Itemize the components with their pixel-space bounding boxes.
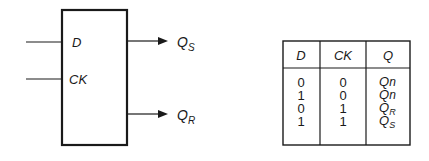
header-q: Q — [383, 48, 393, 63]
header-d: D — [296, 48, 305, 63]
qr-arrow-icon — [158, 110, 168, 118]
truth-table: D CK Q 0 0 Qn 1 0 Qn 0 1 QR 1 1 QS — [283, 41, 410, 145]
qs-output-label: QS — [177, 34, 195, 53]
ck-input-label: CK — [69, 72, 88, 87]
header-ck: CK — [334, 48, 353, 63]
table-row: 1 1 QS — [297, 113, 395, 130]
cell-d: 1 — [297, 114, 304, 129]
diagram-canvas: D CK QS QR D CK Q 0 0 Qn 1 0 Qn — [0, 0, 429, 161]
d-input-label: D — [72, 35, 81, 50]
flip-flop-block: D CK QS QR — [26, 10, 195, 145]
cell-ck: 1 — [339, 114, 346, 129]
qs-arrow-icon — [158, 37, 168, 45]
qr-output-label: QR — [177, 107, 195, 126]
